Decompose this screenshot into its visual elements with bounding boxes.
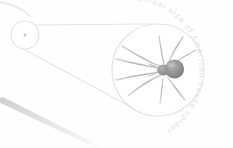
corner-arc-decoration — [0, 1, 30, 16]
spider-abdomen — [165, 59, 184, 78]
callout-line-upper — [33, 24, 152, 25]
actual-size-spider-diagram: actual size of American house spider — [0, 0, 233, 148]
foreground-leg-wedge — [0, 97, 100, 148]
spider-abdomen-highlight — [167, 62, 174, 68]
actual-size-spider-dot — [24, 34, 27, 37]
diagram-canvas: actual size of American house spider — [0, 0, 233, 148]
